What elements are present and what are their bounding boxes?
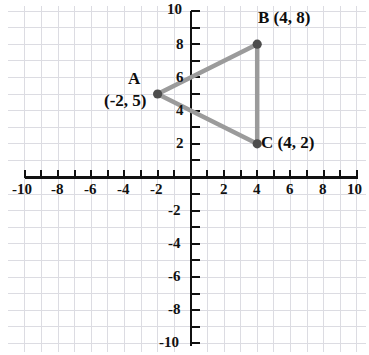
point-a [153,89,162,98]
x-tick-label--4: -4 [117,182,130,197]
x-tick-label--2: -2 [150,182,163,197]
y-tick-label--2: -2 [168,203,181,218]
y-tick-label-4: 4 [176,103,184,118]
y-tick-label-8: 8 [176,37,184,52]
y-tick-label--10: -10 [159,335,179,350]
x-tick-label-6: 6 [286,182,294,197]
point-label-a: A [128,70,140,88]
y-tick-label-10: 10 [167,2,182,17]
y-tick-label-2: 2 [176,136,184,151]
point-label-c: C (4, 2) [261,134,314,152]
x-tick-label--8: -8 [51,182,64,197]
point-b [253,40,262,49]
x-tick-label-10: 10 [347,182,362,197]
y-tick-label--8: -8 [168,302,181,317]
x-tick-label--10: -10 [12,182,32,197]
x-tick-label--6: -6 [84,182,97,197]
coordinate-plane-figure: -10 -8 -6 -4 -2 2 4 6 8 10 10 8 6 4 2 -2… [0,0,369,355]
x-tick-label-2: 2 [220,182,228,197]
point-label-b: B (4, 8) [258,9,310,27]
x-tick-label-4: 4 [253,182,261,197]
graph-canvas [0,0,369,355]
point-label-a-coords: (-2, 5) [104,92,146,110]
grid-lines [8,6,366,352]
y-tick-label--4: -4 [168,236,181,251]
y-tick-label--6: -6 [168,269,181,284]
x-tick-label-8: 8 [319,182,327,197]
y-tick-label-6: 6 [176,70,184,85]
